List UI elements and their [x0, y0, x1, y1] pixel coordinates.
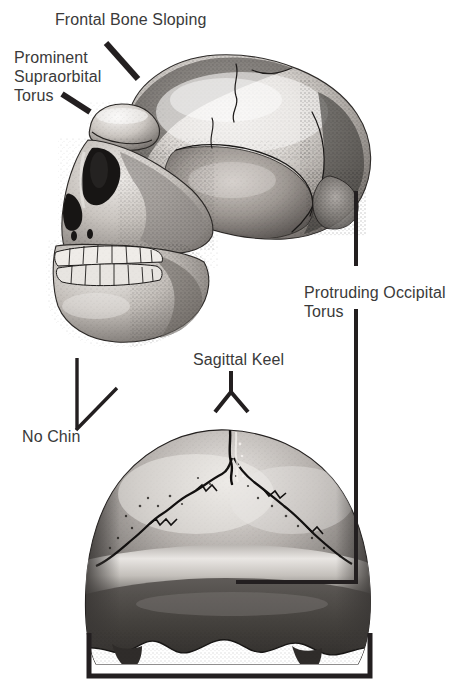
leader-supraorbital-torus [62, 94, 90, 112]
teeth [54, 243, 166, 289]
leader-no-chin [76, 358, 117, 430]
label-prominent-supraorbital-torus-line3: Torus [14, 86, 54, 105]
label-no-chin: No Chin [22, 427, 81, 446]
label-protruding-occipital-torus-line1: Protruding Occipital [304, 283, 446, 302]
label-protruding-occipital-torus-line2: Torus [304, 302, 344, 321]
posterior-skull-view [80, 425, 380, 672]
leader-sagittal-keel [215, 371, 248, 412]
label-sagittal-keel: Sagittal Keel [193, 350, 284, 369]
label-frontal-bone-sloping: Frontal Bone Sloping [55, 10, 206, 29]
label-prominent-supraorbital-torus-line1: Prominent [14, 48, 88, 67]
skull-anatomy-diagram: Frontal Bone Sloping Prominent Supraorbi… [0, 0, 454, 692]
leader-frontal-bone-sloping [106, 43, 138, 79]
label-prominent-supraorbital-torus-line2: Supraorbital [14, 67, 101, 86]
skull-illustrations [0, 0, 454, 692]
